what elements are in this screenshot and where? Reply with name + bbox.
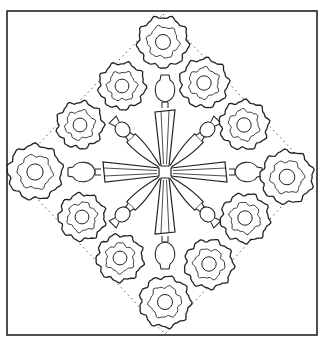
decorative-design bbox=[0, 0, 322, 343]
